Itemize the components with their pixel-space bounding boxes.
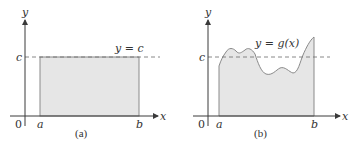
- curve-label: y = g(x): [254, 37, 299, 50]
- origin-label: 0: [198, 118, 205, 131]
- rectangle-region: [40, 57, 139, 116]
- figure: y x 0 c a b y = c (a) y x 0 c a b y = g(…: [0, 0, 357, 150]
- panel-b: y x 0 c a b y = g(x) (b): [193, 6, 349, 140]
- c-label: c: [16, 51, 22, 64]
- c-label: c: [199, 51, 205, 64]
- caption-b: (b): [254, 127, 267, 140]
- panel-a: y x 0 c a b y = c (a): [10, 6, 167, 140]
- origin-label: 0: [15, 118, 22, 131]
- y-axis-label: y: [204, 6, 212, 19]
- a-label: a: [37, 118, 44, 131]
- b-label: b: [136, 118, 143, 131]
- curve-label: y = c: [114, 42, 144, 55]
- y-axis-label: y: [21, 6, 29, 19]
- x-axis-label: x: [342, 110, 349, 123]
- b-label: b: [311, 118, 318, 131]
- a-label: a: [216, 118, 223, 131]
- caption-a: (a): [75, 127, 88, 140]
- x-axis-label: x: [160, 110, 167, 123]
